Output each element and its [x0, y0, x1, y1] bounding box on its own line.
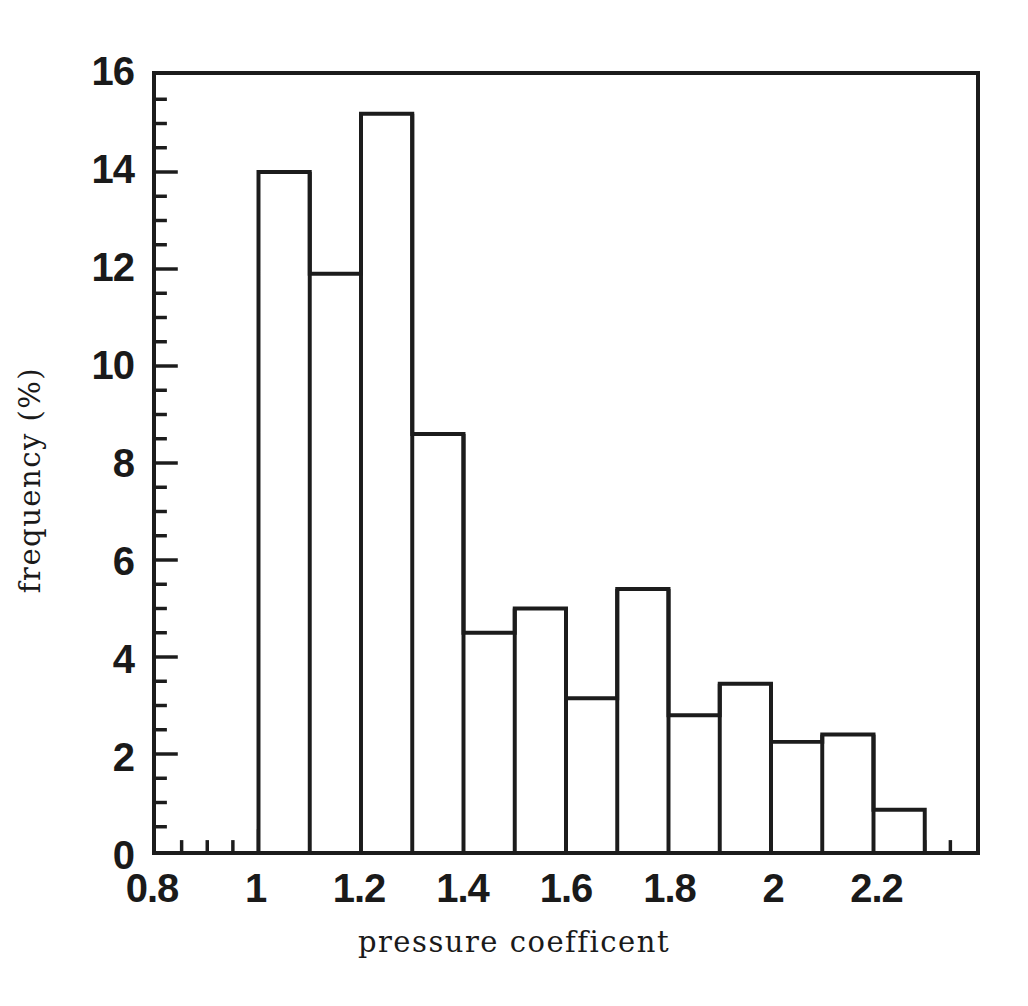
y-tick-label: 6: [113, 539, 134, 584]
x-axis-tick-labels: 0.811.21.41.61.822.2: [152, 866, 980, 918]
x-tick-label: 1.4: [436, 866, 489, 911]
y-tick-label: 8: [113, 441, 134, 486]
y-axis-tick-labels: 0246810121416: [58, 71, 134, 855]
x-tick-label: 1.2: [333, 866, 386, 911]
histogram-bars: [156, 75, 976, 851]
y-tick-label: 14: [92, 147, 135, 192]
x-tick-label: 1: [245, 866, 266, 911]
y-axis-title: frequency (%): [13, 330, 47, 630]
x-axis-title: pressure coefficent: [0, 925, 1028, 959]
x-tick-label: 2: [762, 866, 783, 911]
histogram-outline: [259, 114, 925, 851]
y-tick-label: 4: [113, 637, 134, 682]
x-tick-label: 2.2: [850, 866, 903, 911]
x-tick-label: 1.8: [643, 866, 696, 911]
x-tick-label: 0.8: [126, 866, 179, 911]
x-tick-label: 1.6: [540, 866, 593, 911]
y-tick-label: 2: [113, 735, 134, 780]
plot-frame: [152, 71, 980, 855]
histogram-figure: 0246810121416 frequency (%) 0.811.21.41.…: [0, 0, 1028, 1006]
y-tick-label: 16: [92, 49, 135, 94]
y-tick-label: 10: [92, 343, 135, 388]
y-tick-label: 12: [92, 245, 135, 290]
